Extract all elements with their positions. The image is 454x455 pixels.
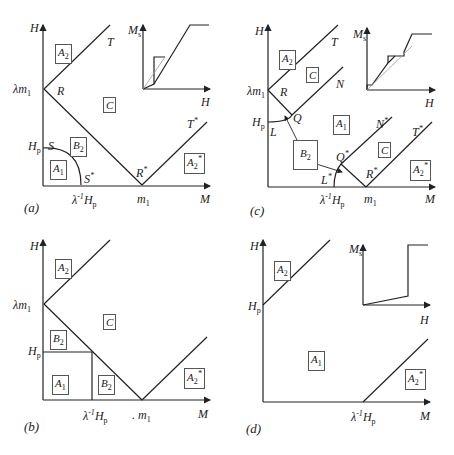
tick-lambda-m1: λm1	[13, 299, 31, 314]
region-a2-star: A2*	[184, 368, 205, 389]
inset-h-label: H	[201, 96, 210, 108]
tick-hp: Hp	[28, 140, 41, 155]
tick-m1: m1	[137, 193, 150, 208]
region-a2: A2	[55, 44, 72, 64]
point-q-star: Q*	[336, 150, 349, 163]
point-r: R	[280, 86, 287, 98]
point-n: N	[336, 78, 344, 90]
region-a2: A2	[55, 259, 72, 279]
region-a2-star: A2*	[405, 369, 426, 390]
point-t: T	[107, 36, 114, 48]
h-axis-label: H	[255, 25, 264, 37]
tick-hp: Hp	[252, 116, 265, 131]
m-axis-label: M	[200, 193, 210, 205]
h-axis-label: H	[30, 240, 39, 252]
region-c: C	[103, 97, 116, 113]
tick-inv-hp: λ-1Hp	[320, 193, 345, 209]
region-c: C	[103, 314, 116, 330]
region-a1: A1	[52, 375, 69, 395]
tick-lambda-m1: λm1	[247, 85, 265, 100]
m-axis-label: M	[420, 410, 430, 422]
region-b2-right: B2	[98, 375, 115, 395]
region-a1: A1	[308, 351, 325, 371]
h-axis-label: H	[250, 240, 259, 252]
point-l: L	[270, 126, 277, 138]
inset-ms-label: Ms	[349, 243, 362, 258]
m-axis-label: M	[198, 408, 208, 420]
point-t: T	[331, 36, 338, 48]
point-t-star: T*	[187, 117, 198, 130]
inset-ms-label: Ms	[128, 24, 141, 39]
point-q: Q	[293, 112, 302, 124]
point-r-star: R*	[366, 167, 377, 180]
inset-h-label: H	[425, 97, 434, 109]
caption-a: (a)	[24, 200, 39, 216]
region-a2: A2	[279, 50, 296, 70]
caption-b: (b)	[24, 419, 39, 435]
m-axis-label: M	[425, 193, 435, 205]
region-a2: A2	[274, 261, 291, 281]
point-n-star: N*	[376, 117, 388, 130]
point-t-star: T*	[412, 125, 423, 138]
region-a2-star: A2*	[184, 153, 205, 174]
point-s-star: S*	[84, 172, 94, 185]
point-r-star: R*	[136, 166, 147, 179]
region-a1: A1	[333, 115, 350, 135]
tick-lambda-m1: λm1	[13, 83, 31, 98]
region-a2-star: A2*	[410, 160, 431, 181]
region-c-bottom: C	[378, 142, 391, 158]
tick-inv-hp: λ-1Hp	[72, 193, 97, 209]
region-a1: A1	[50, 160, 67, 180]
region-b2-top: B2	[50, 330, 67, 350]
tick-inv-hp: λ-1Hp	[351, 410, 376, 426]
h-axis-label: H	[30, 22, 39, 34]
point-l-star: L*	[321, 173, 332, 186]
tick-m1: m1	[364, 193, 377, 208]
point-r: R	[57, 85, 64, 97]
caption-d: (d)	[246, 421, 261, 437]
inset-ms-label: Ms	[353, 28, 366, 43]
tick-hp: Hp	[28, 345, 41, 360]
region-c-top: C	[306, 67, 319, 83]
region-b2: B2	[70, 137, 87, 157]
tick-inv-hp: λ-1Hp	[83, 409, 108, 425]
tick-hp: Hp	[248, 300, 261, 315]
tick-m1: . m1	[132, 409, 151, 424]
region-b2: B2	[293, 140, 318, 170]
point-s: S	[48, 140, 54, 152]
inset-h-label: H	[420, 314, 429, 326]
caption-c: (c)	[250, 203, 264, 219]
